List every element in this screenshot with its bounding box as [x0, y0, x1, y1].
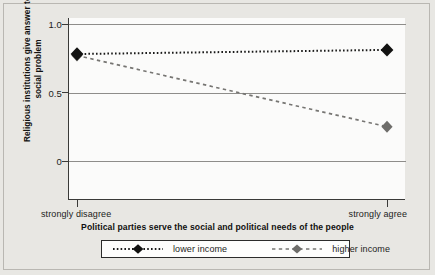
plot-area [68, 18, 405, 200]
legend-swatch-higher-income [271, 243, 323, 255]
legend-item-lower-income[interactable]: lower income [112, 241, 227, 257]
legend-swatch-lower-income [112, 243, 164, 255]
ytick-mark-0.5 [62, 92, 69, 93]
legend-label-lower-income: lower income [173, 244, 227, 254]
gridline-1.0 [69, 24, 406, 25]
chart-legend: lower income higher income [101, 240, 350, 258]
y-axis-title: Religious institutions give answer to so… [22, 0, 44, 142]
legend-item-higher-income[interactable]: higher income [271, 241, 390, 257]
gridline-0 [69, 161, 406, 162]
legend-label-higher-income: higher income [332, 244, 390, 254]
ytick-mark-1.0 [62, 24, 69, 25]
y-axis-title-line2: social problem [34, 39, 43, 98]
y-axis-title-line1: Religious institutions give answer to [23, 0, 32, 142]
xtick-mark-strongly-disagree [77, 200, 78, 207]
y-axis-title-wrapper: Religious institutions give answer to so… [20, 0, 46, 164]
chart-figure: 1.0 0.5 0 Religious institutions give an… [0, 0, 435, 275]
xtick-label-strongly-disagree: strongly disagree [41, 209, 111, 219]
xtick-mark-strongly-agree [387, 200, 388, 207]
xtick-label-strongly-agree: strongly agree [349, 209, 407, 219]
gridline-0.5 [69, 93, 406, 94]
ytick-mark-0 [62, 161, 69, 162]
x-axis-title: Political parties serve the social and p… [0, 222, 435, 232]
